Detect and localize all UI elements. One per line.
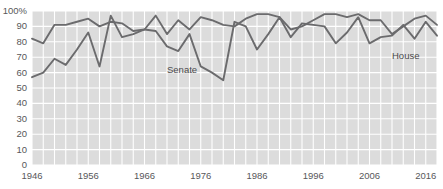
x-axis-tick-label: 1986: [246, 171, 267, 181]
y-axis-tick-label: 70: [16, 52, 27, 62]
y-axis-tick-label: 60: [16, 68, 27, 78]
data-series-layer: [32, 11, 437, 165]
series-annotation-senate: Senate: [167, 65, 197, 75]
y-axis-tick-label: 80: [16, 37, 27, 47]
y-axis-tick-label: 50: [16, 83, 27, 93]
y-axis-tick-label: 100%: [3, 6, 27, 16]
x-axis-tick-label: 2016: [415, 171, 436, 181]
y-axis: 100%9080706050403020100: [0, 0, 29, 189]
x-axis-tick-label: 1966: [134, 171, 155, 181]
y-axis-tick-label: 20: [16, 129, 27, 139]
x-axis-tick-label: 2006: [359, 171, 380, 181]
y-axis-tick-label: 10: [16, 145, 27, 155]
y-axis-tick-label: 40: [16, 98, 27, 108]
x-axis-tick-label: 1946: [21, 171, 42, 181]
series-line-senate: [32, 16, 437, 81]
series-annotation-house: House: [392, 51, 419, 61]
x-axis-tick-label: 1976: [190, 171, 211, 181]
y-axis-tick-label: 90: [16, 21, 27, 31]
x-axis: 19461956196619761986199620062016: [0, 168, 443, 189]
y-axis-tick-label: 30: [16, 114, 27, 124]
x-axis-tick-label: 1996: [303, 171, 324, 181]
reelection-rate-line-chart: 100%9080706050403020100 1946195619661976…: [0, 0, 443, 189]
plot-area: [32, 11, 437, 165]
x-axis-tick-label: 1956: [78, 171, 99, 181]
